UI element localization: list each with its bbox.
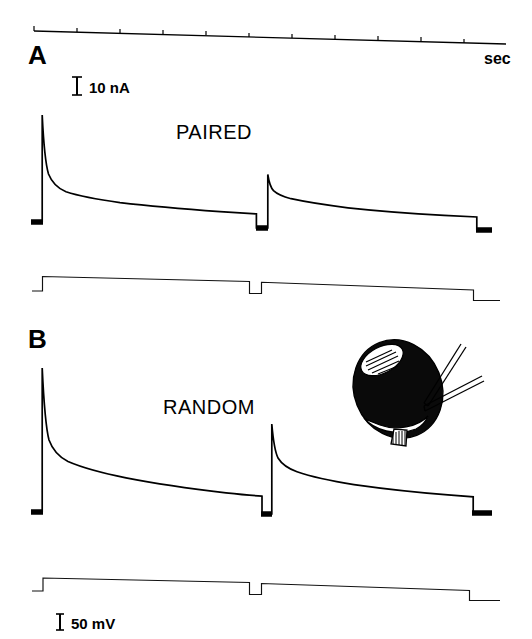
time-scale-bar — [34, 26, 506, 44]
figure-root: A sec 10 nA PAIRED B — [0, 0, 532, 639]
command-trace-paired — [32, 277, 500, 301]
current-scale-bar: 10 nA — [72, 77, 130, 96]
time-scale-line — [34, 31, 506, 44]
time-axis-label: sec — [484, 50, 511, 67]
figure-canvas: A sec 10 nA PAIRED B — [0, 0, 532, 639]
neuron-soma-inset — [338, 326, 484, 452]
panel-letter-b: B — [28, 324, 47, 354]
command-trace-random — [32, 578, 500, 601]
trace-paired-current — [31, 115, 492, 230]
paired-pulse-2-path — [264, 175, 477, 230]
voltage-scale-label: 50 mV — [71, 615, 115, 632]
panel-letter-a: A — [28, 40, 47, 70]
condition-label-paired: PAIRED — [176, 121, 252, 143]
random-pulse-2-path — [270, 424, 474, 514]
current-scale-label: 10 nA — [89, 79, 130, 96]
condition-label-random: RANDOM — [163, 396, 255, 418]
voltage-scale-bar: 50 mV — [56, 614, 115, 632]
random-pulse-1-path — [42, 368, 269, 514]
